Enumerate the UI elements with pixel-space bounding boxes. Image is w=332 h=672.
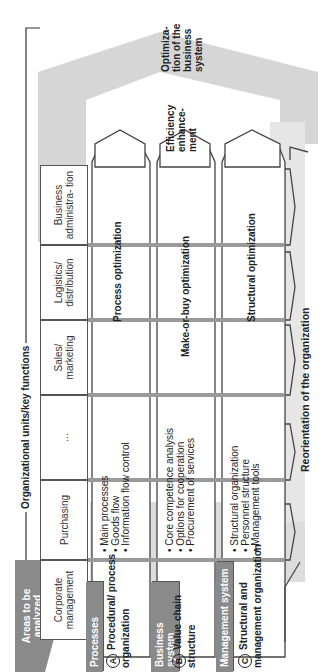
row-a-title-text: Procedural/ process organization — [106, 554, 131, 668]
efficiency-enhancement-label: Efficiency enhance- ment — [165, 90, 198, 152]
row-c-bullets: Structural organization Personnel struct… — [230, 446, 262, 552]
optimization-business-system-label: Optimiza- tion of the business system — [160, 10, 204, 72]
row-a-title: AProcedural/ process organization — [106, 548, 131, 668]
tab-management-system: Management system — [216, 562, 233, 672]
row-b-outcome: Make-or-buy optimization — [180, 236, 191, 357]
diagram-stage: Areas to be analyzed Organizational unit… — [0, 0, 332, 672]
bullet-item: Information flow control — [121, 442, 132, 552]
row-c-title: CStructural and management organization — [238, 538, 263, 668]
row-c-outcome: Structural optimization — [246, 213, 257, 322]
org-units-title: Organizational units/key functions — [20, 343, 31, 512]
column-corporate-management: Corporate management — [40, 560, 88, 640]
row-c-title-text: Structural and management organization — [238, 544, 263, 668]
row-b-bullets: Core competence analysis Options for coo… — [165, 428, 197, 552]
row-a-bullets: Main processes Goods flow Information fl… — [100, 442, 132, 552]
letter-c-icon: C — [238, 654, 252, 668]
row-b-title: BValue chain structure — [172, 558, 197, 668]
tab-processes: Processes — [86, 582, 103, 672]
letter-b-icon: B — [172, 654, 186, 668]
column-business-administration: Business administra- tion — [40, 165, 88, 245]
column-ellipsis: ... — [40, 395, 88, 480]
reorientation-label: Reorientation of the organization — [300, 308, 311, 473]
bullet-item: Structural organization — [230, 446, 241, 552]
bullet-item: Main processes — [100, 442, 111, 552]
column-sales-marketing: Sales/ marketing — [40, 320, 88, 395]
letter-a-icon: A — [106, 654, 120, 668]
bullet-item: Management tools — [251, 446, 262, 552]
column-logistics-distribution: Logistics/ distribution — [40, 245, 88, 320]
column-purchasing: Purchasing — [40, 480, 88, 560]
bullet-item: Core competence analysis — [165, 428, 176, 552]
row-a-outcome: Process optimization — [112, 221, 123, 322]
bullet-item: Procurement of services — [186, 428, 197, 552]
